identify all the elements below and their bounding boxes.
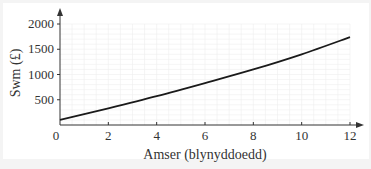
svg-text:12: 12	[344, 128, 357, 143]
y-axis-ticks: 500100015002000	[28, 16, 60, 107]
svg-text:0: 0	[53, 128, 60, 143]
y-axis-label: Swm (£)	[8, 48, 24, 97]
svg-text:8: 8	[250, 128, 257, 143]
svg-text:1000: 1000	[28, 67, 54, 82]
svg-text:10: 10	[295, 128, 308, 143]
svg-text:1500: 1500	[28, 41, 54, 56]
svg-text:500: 500	[35, 92, 55, 107]
line-chart: 024681012 500100015002000 Amser (blynydd…	[0, 0, 371, 169]
x-axis-label: Amser (blynyddoedd)	[143, 147, 267, 163]
svg-text:2000: 2000	[28, 16, 54, 31]
svg-text:4: 4	[153, 128, 160, 143]
svg-text:2: 2	[105, 128, 112, 143]
svg-text:6: 6	[202, 128, 209, 143]
